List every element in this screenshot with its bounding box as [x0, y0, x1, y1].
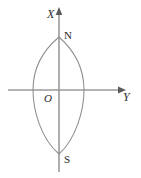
x-axis-arrowhead: [56, 7, 63, 15]
x-axis-label: X: [46, 7, 55, 21]
figure-canvas: X Y O N S: [0, 0, 141, 178]
geometry-figure: X Y O N S: [0, 0, 141, 178]
y-axis-label: Y: [123, 90, 131, 104]
lens-right-arc: [59, 37, 84, 154]
origin-label: O: [44, 92, 52, 104]
north-pole-label: N: [64, 29, 72, 41]
south-pole-label: S: [64, 153, 70, 165]
